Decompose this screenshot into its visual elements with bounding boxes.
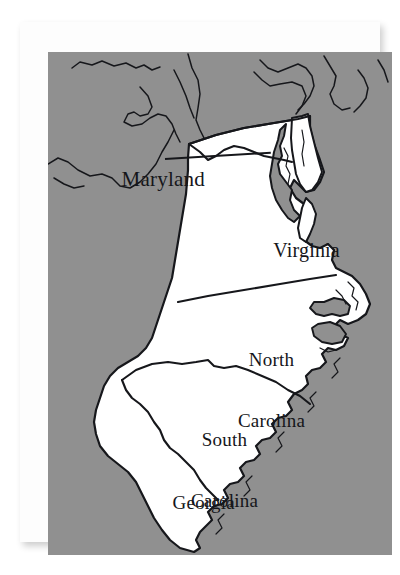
map-plate: .ink { fill:none; stroke:#16171b; stroke… (48, 52, 392, 555)
map-label-virginia: Virginia (232, 219, 340, 283)
map-label-georgia-text: Georgia (173, 492, 235, 513)
map-label-maryland-text: Maryland (122, 167, 205, 191)
map-label-south-carolina-line1: South (191, 430, 258, 450)
map-label-north-carolina-line1: North (238, 350, 305, 370)
map-label-georgia: Georgia (133, 473, 235, 533)
map-label-virginia-text: Virginia (273, 239, 340, 261)
map-photo-card: .ink { fill:none; stroke:#16171b; stroke… (20, 22, 380, 542)
screenshot-canvas: .ink { fill:none; stroke:#16171b; stroke… (0, 0, 400, 575)
